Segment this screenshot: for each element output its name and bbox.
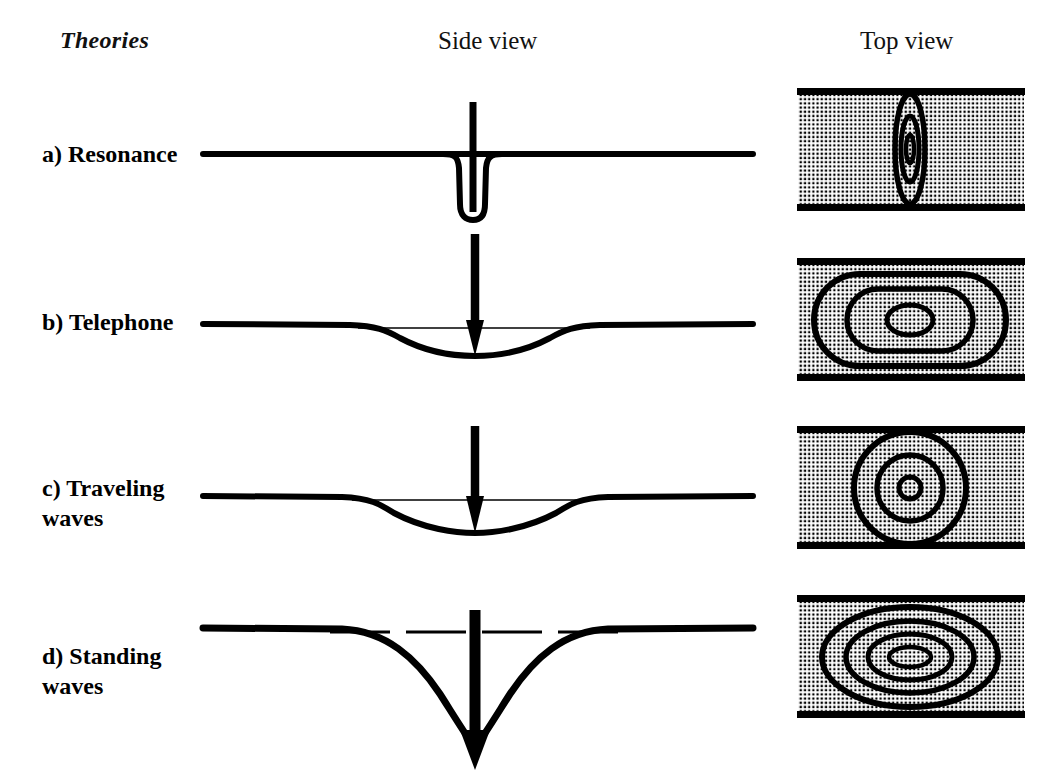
arrow-head-traveling-waves — [466, 496, 484, 533]
side-view-traveling-waves — [190, 420, 770, 560]
row-label-telephone: b) Telephone — [42, 307, 173, 337]
arrow-head-standing-waves — [460, 730, 490, 770]
stipple-field-standing-waves — [798, 599, 1024, 714]
arrow-head-telephone — [466, 320, 484, 356]
stipple-field-traveling-waves — [798, 430, 1024, 545]
side-view-telephone — [190, 252, 770, 382]
channel-wall-bottom-standing-waves — [797, 711, 1025, 718]
membrane-theories-figure: Theories Side view Top view a) Resonance… — [0, 0, 1049, 780]
channel-wall-bottom-telephone — [797, 374, 1025, 381]
channel-wall-top-telephone — [797, 258, 1025, 265]
top-view-standing-waves — [795, 592, 1027, 722]
column-header-top-view: Top view — [860, 27, 953, 55]
side-view-standing-waves — [190, 588, 770, 778]
top-view-telephone — [795, 255, 1027, 385]
row-label-standing-waves: d) Standing waves — [42, 641, 161, 701]
channel-wall-top-standing-waves — [797, 595, 1025, 602]
side-view-resonance — [190, 88, 770, 228]
force-arrow-standing-waves — [460, 610, 490, 770]
top-view-resonance — [795, 85, 1027, 215]
membrane-profile-resonance — [203, 154, 753, 220]
force-arrow-telephone — [466, 234, 484, 356]
column-header-side-view: Side view — [438, 27, 537, 55]
top-view-traveling-waves — [795, 423, 1027, 553]
row-label-traveling-waves: c) Traveling waves — [42, 473, 164, 533]
stipple-field-resonance — [798, 92, 1024, 207]
row-label-resonance: a) Resonance — [42, 139, 177, 169]
force-arrow-traveling-waves — [466, 426, 484, 533]
column-header-theories: Theories — [60, 27, 149, 54]
